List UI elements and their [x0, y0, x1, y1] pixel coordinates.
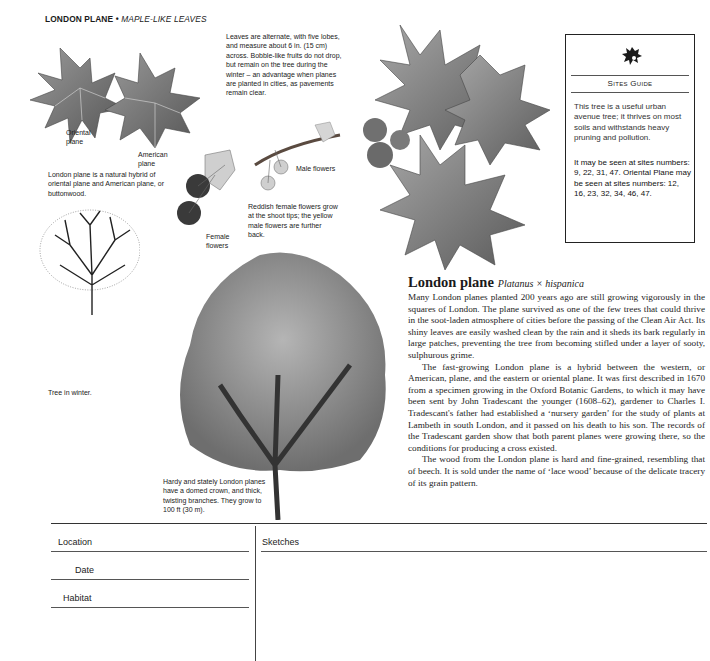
header-title: LONDON PLANE	[45, 14, 113, 24]
article-paragraph: Many London planes planted 200 years ago…	[408, 292, 705, 362]
location-field[interactable]	[110, 534, 250, 550]
section-divider	[51, 523, 707, 524]
oak-leaf-logo-icon	[621, 45, 643, 67]
american-plane-label: American plane	[138, 150, 178, 169]
guide-rule-bottom	[571, 92, 689, 93]
date-line	[51, 579, 249, 580]
header-separator: •	[116, 14, 119, 24]
sites-guide-box: Sites Guide This tree is a useful urban …	[565, 34, 695, 243]
article-paragraph: The wood from the London plane is hard a…	[408, 454, 705, 489]
sketches-label: Sketches	[262, 537, 299, 547]
male-flowers-label: Male flowers	[296, 164, 336, 173]
latin-name: Platanus × hispanica	[498, 278, 584, 289]
guide-rule-top	[571, 75, 689, 76]
header-subtitle: MAPLE-LIKE LEAVES	[121, 14, 207, 24]
sites-guide-description: This tree is a useful urban avenue tree;…	[574, 102, 692, 144]
winter-caption: Tree in winter.	[48, 388, 108, 397]
article-title: London planePlatanus × hispanica	[408, 274, 584, 291]
form-column-divider	[255, 526, 256, 661]
article-paragraph: The fast-growing London plane is a hybri…	[408, 362, 705, 455]
winter-tree-illustration	[30, 205, 140, 315]
sites-guide-sites: It may be seen at sites numbers: 9, 22, …	[574, 158, 692, 200]
sketches-area[interactable]	[261, 555, 707, 659]
hybrid-caption: London plane is a natural hybrid of orie…	[48, 170, 178, 198]
location-line	[51, 551, 249, 552]
flowers-caption: Reddish female flowers grow at the shoot…	[248, 202, 338, 240]
habitat-line	[51, 607, 249, 608]
page-header: LONDON PLANE • MAPLE-LIKE LEAVES	[45, 14, 207, 24]
summer-caption: Hardy and stately London planes have a d…	[163, 477, 273, 515]
oriental-plane-label: Oriental plane	[66, 128, 106, 147]
sites-guide-title: Sites Guide	[566, 79, 694, 88]
habitat-label: Habitat	[63, 593, 92, 603]
article-body: Many London planes planted 200 years ago…	[408, 292, 705, 489]
sketches-line	[261, 551, 707, 552]
leaf-cluster-illustration	[340, 15, 560, 270]
location-label: Location	[58, 537, 92, 547]
habitat-field[interactable]	[110, 590, 250, 606]
leaves-caption: Leaves are alternate, with five lobes, a…	[226, 32, 346, 98]
date-label: Date	[75, 565, 94, 575]
common-name: London plane	[408, 274, 494, 290]
date-field[interactable]	[110, 562, 250, 578]
